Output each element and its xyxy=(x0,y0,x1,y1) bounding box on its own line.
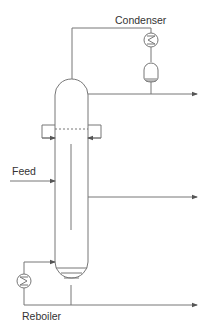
distillation-column xyxy=(55,79,88,278)
distillation-diagram: Condenser Feed Reboiler xyxy=(0,0,208,334)
condenser-label: Condenser xyxy=(115,14,167,26)
condenser-coil-icon xyxy=(147,36,155,44)
feed-label: Feed xyxy=(12,165,36,177)
reboiler-label: Reboiler xyxy=(22,310,62,322)
reboiler xyxy=(17,262,55,305)
reboiler-coil-icon xyxy=(20,277,28,285)
overhead-line xyxy=(72,28,151,79)
reflux-drum xyxy=(144,63,158,94)
condenser xyxy=(144,33,158,62)
side-tray xyxy=(42,125,101,138)
